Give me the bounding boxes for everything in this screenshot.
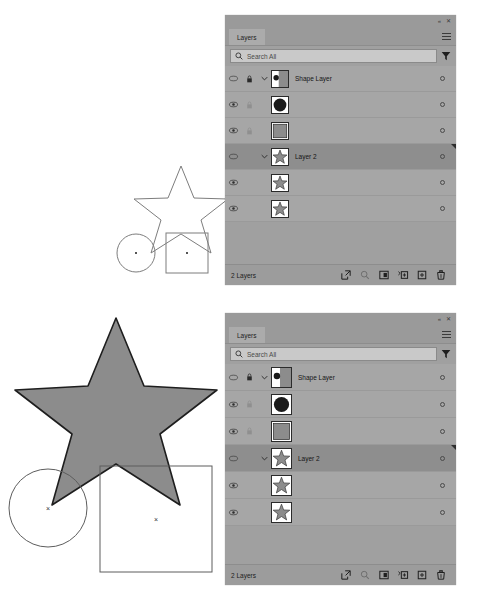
layer-row[interactable] <box>225 196 456 222</box>
star-thumb[interactable] <box>271 148 289 166</box>
add-mask-icon[interactable] <box>379 570 389 580</box>
tab-layers[interactable]: Layers <box>229 29 265 45</box>
double-chevron-left-icon[interactable]: « <box>438 18 440 24</box>
layer-row[interactable]: Layer 2 <box>225 445 456 472</box>
add-adjustment-icon[interactable] <box>398 270 408 280</box>
lock-icon[interactable] <box>246 101 253 109</box>
layer-visibility-toggle[interactable] <box>225 428 241 435</box>
layer-target-circle[interactable] <box>428 375 456 380</box>
star-thumb[interactable] <box>271 200 289 218</box>
eye-icon[interactable] <box>229 374 238 381</box>
search-input[interactable]: Search All <box>230 347 437 361</box>
layer-target-circle[interactable] <box>428 206 456 211</box>
lock-icon[interactable] <box>246 373 253 381</box>
new-layer-icon[interactable] <box>417 570 427 580</box>
layer-visibility-toggle[interactable] <box>225 127 241 134</box>
layers-panel-bottom[interactable]: «✕LayersSearch AllShape LayerLayer 22 La… <box>225 313 456 585</box>
double-chevron-left-icon[interactable]: « <box>438 316 440 322</box>
close-icon[interactable]: ✕ <box>446 316 451 322</box>
eye-icon[interactable] <box>229 482 238 489</box>
layer-thumbnail[interactable] <box>271 502 292 523</box>
chevron-down-icon[interactable] <box>261 456 268 461</box>
eye-icon[interactable] <box>229 127 238 134</box>
layer-row[interactable]: Shape Layer <box>225 66 456 92</box>
layer-lock-toggle[interactable] <box>241 101 257 109</box>
layer-visibility-toggle[interactable] <box>225 482 241 489</box>
close-icon[interactable]: ✕ <box>446 18 451 24</box>
link-layers-icon[interactable] <box>341 570 351 580</box>
layer-row[interactable] <box>225 92 456 118</box>
layer-visibility-toggle[interactable] <box>225 374 241 381</box>
layer-thumbnail[interactable] <box>271 200 289 218</box>
ellipse-thumb[interactable] <box>271 96 289 114</box>
hamburger-menu-icon[interactable] <box>442 33 451 41</box>
chevron-down-icon[interactable] <box>261 76 268 81</box>
star-thumb[interactable] <box>271 475 292 496</box>
layer-expand-toggle[interactable] <box>257 154 271 159</box>
layer-thumbnail[interactable] <box>271 70 289 88</box>
layer-lock-toggle[interactable] <box>241 400 257 408</box>
layer-target-circle[interactable] <box>428 102 456 107</box>
lock-icon[interactable] <box>246 75 253 83</box>
eye-icon[interactable] <box>229 455 238 462</box>
layer-thumbnail[interactable] <box>271 122 289 140</box>
ellipse-thumb[interactable] <box>271 394 292 415</box>
layer-target-circle[interactable] <box>428 510 456 515</box>
eye-icon[interactable] <box>229 509 238 516</box>
layer-target-circle[interactable] <box>428 154 456 159</box>
shape-layer-thumb[interactable] <box>271 367 292 388</box>
layer-visibility-toggle[interactable] <box>225 75 241 82</box>
lock-icon[interactable] <box>246 427 253 435</box>
footer-toolbar[interactable] <box>341 570 450 580</box>
lock-icon[interactable] <box>246 400 253 408</box>
layer-lock-toggle[interactable] <box>241 427 257 435</box>
delete-layer-icon[interactable] <box>436 570 446 580</box>
rectangle-thumb[interactable] <box>271 421 292 442</box>
layer-target-circle[interactable] <box>428 456 456 461</box>
layer-expand-toggle[interactable] <box>257 375 271 380</box>
layer-name[interactable]: Layer 2 <box>289 153 428 160</box>
eye-icon[interactable] <box>229 205 238 212</box>
layer-target-circle[interactable] <box>428 402 456 407</box>
eye-icon[interactable] <box>229 428 238 435</box>
tab-layers[interactable]: Layers <box>229 327 265 343</box>
layer-visibility-toggle[interactable] <box>225 401 241 408</box>
layer-thumbnail[interactable] <box>271 421 292 442</box>
layer-lock-toggle[interactable] <box>241 373 257 381</box>
layer-lock-toggle[interactable] <box>241 127 257 135</box>
filter-funnel-icon[interactable] <box>441 51 451 61</box>
layer-visibility-toggle[interactable] <box>225 179 241 186</box>
layer-lock-toggle[interactable] <box>241 75 257 83</box>
layer-row[interactable]: Shape Layer <box>225 364 456 391</box>
layer-target-circle[interactable] <box>428 128 456 133</box>
layer-row[interactable] <box>225 418 456 445</box>
layer-thumbnail[interactable] <box>271 367 292 388</box>
layer-target-circle[interactable] <box>428 429 456 434</box>
layer-thumbnail[interactable] <box>271 96 289 114</box>
delete-layer-icon[interactable] <box>436 270 446 280</box>
eye-icon[interactable] <box>229 101 238 108</box>
chevron-down-icon[interactable] <box>261 154 268 159</box>
layer-name[interactable]: Shape Layer <box>292 374 428 381</box>
link-layers-icon[interactable] <box>341 270 351 280</box>
layer-row[interactable] <box>225 472 456 499</box>
layer-name[interactable]: Shape Layer <box>289 75 428 82</box>
layer-expand-toggle[interactable] <box>257 76 271 81</box>
rectangle-thumb[interactable] <box>271 122 289 140</box>
eye-icon[interactable] <box>229 75 238 82</box>
star-thumb[interactable] <box>271 502 292 523</box>
eye-icon[interactable] <box>229 401 238 408</box>
layer-target-circle[interactable] <box>428 76 456 81</box>
layer-visibility-toggle[interactable] <box>225 101 241 108</box>
layer-name[interactable]: Layer 2 <box>292 455 428 462</box>
star-thumb[interactable] <box>271 174 289 192</box>
layer-thumbnail[interactable] <box>271 394 292 415</box>
layer-expand-toggle[interactable] <box>257 456 271 461</box>
layer-visibility-toggle[interactable] <box>225 455 241 462</box>
search-input[interactable]: Search All <box>230 49 437 63</box>
star-thumb[interactable] <box>271 448 292 469</box>
layer-visibility-toggle[interactable] <box>225 205 241 212</box>
add-adjustment-icon[interactable] <box>398 570 408 580</box>
layer-row[interactable]: Layer 2 <box>225 144 456 170</box>
hamburger-menu-icon[interactable] <box>442 331 451 339</box>
